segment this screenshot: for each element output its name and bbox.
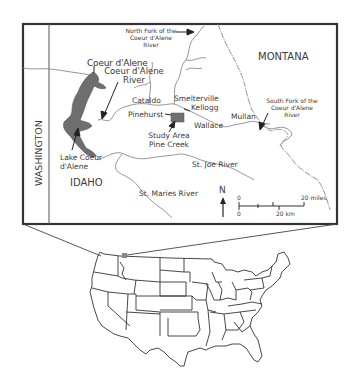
- north-fork-line1: North Fork of the: [122, 27, 180, 34]
- label-smelterville: Smelterville: [174, 95, 219, 103]
- scale-km-end: 20 km: [276, 211, 295, 217]
- study-area-marker: [171, 113, 184, 122]
- study-area-line1: Study Area: [142, 131, 196, 140]
- lake-line2: d'Alene: [60, 162, 102, 171]
- label-study-area: Study Area Pine Creek: [142, 131, 196, 150]
- scale-km-start: 0: [237, 211, 241, 217]
- south-fork-line3: River: [264, 111, 320, 118]
- label-washington: WASHINGTON: [34, 120, 44, 186]
- label-coeur-dalene-river: Coeur d'Alene River: [104, 67, 164, 84]
- study-location-highlight: [122, 253, 127, 258]
- scale-miles-end: 20 miles: [301, 195, 327, 201]
- us-outline: [90, 252, 290, 366]
- label-montana: MONTANA: [258, 52, 308, 62]
- north-fork-line2: Coeur d'Alene: [122, 34, 180, 41]
- label-st-maries-river: St. Maries River: [139, 190, 198, 198]
- label-idaho: IDAHO: [70, 178, 103, 188]
- river-label-line2: River: [104, 76, 164, 85]
- study-area-line2: Pine Creek: [142, 140, 196, 149]
- label-st-joe-river: St. Joe River: [192, 161, 238, 169]
- label-mullan: Mullan: [231, 113, 256, 121]
- label-pinehurst: Pinehurst: [128, 111, 163, 119]
- label-south-fork: South Fork of the Coeur d'Alene River: [264, 97, 320, 119]
- lake-line1: Lake Coeur: [60, 153, 102, 162]
- label-lake-coeur-dalene: Lake Coeur d'Alene: [60, 153, 102, 172]
- label-cataldo: Cataldo: [132, 97, 161, 105]
- label-wallace: Wallace: [194, 122, 223, 130]
- south-fork-line1: South Fork of the: [264, 97, 320, 104]
- label-kellogg: Kellogg: [191, 104, 218, 112]
- south-fork-line2: Coeur d'Alene: [264, 104, 320, 111]
- north-arrow-label: N: [219, 186, 226, 195]
- label-north-fork: North Fork of the Coeur d'Alene River: [122, 27, 180, 49]
- scale-miles-start: 0: [237, 195, 241, 201]
- north-fork-line3: River: [122, 41, 180, 48]
